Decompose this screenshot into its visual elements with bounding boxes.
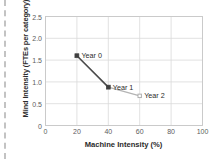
- data-marker: [75, 54, 79, 58]
- chart-figure: Mind Intensity (FTEs per category) 00.51…: [0, 0, 223, 159]
- data-point-label: Year 0: [81, 51, 102, 60]
- gridlines: [46, 17, 203, 126]
- data-point-label: Year 2: [144, 91, 165, 100]
- plot-border-rect: [46, 17, 203, 126]
- data-marker: [138, 94, 141, 97]
- plot-border: [46, 17, 203, 126]
- plot-area: [0, 0, 223, 159]
- data-marker: [106, 85, 110, 89]
- data-point-label: Year 1: [113, 82, 134, 91]
- x-axis-title: Machine Intensity (%): [45, 140, 202, 149]
